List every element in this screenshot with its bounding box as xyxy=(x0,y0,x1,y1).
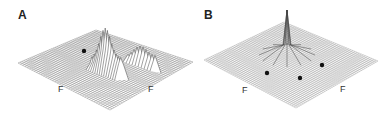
panel-b: B F F xyxy=(196,0,392,118)
marker-dot xyxy=(82,49,86,53)
marker-dot xyxy=(298,76,302,80)
panel-a-axis-label-right: F xyxy=(148,84,154,94)
marker-dot xyxy=(265,71,269,75)
panel-a-axis-label-left: F xyxy=(58,84,64,94)
panel-b-axis-label-right: F xyxy=(340,84,346,94)
panel-b-axis-label-left: F xyxy=(242,85,248,95)
panel-b-surface-plot xyxy=(196,0,392,118)
panel-a: A F F xyxy=(0,0,196,118)
marker-dot xyxy=(320,63,324,67)
panel-a-surface-plot xyxy=(0,0,196,118)
